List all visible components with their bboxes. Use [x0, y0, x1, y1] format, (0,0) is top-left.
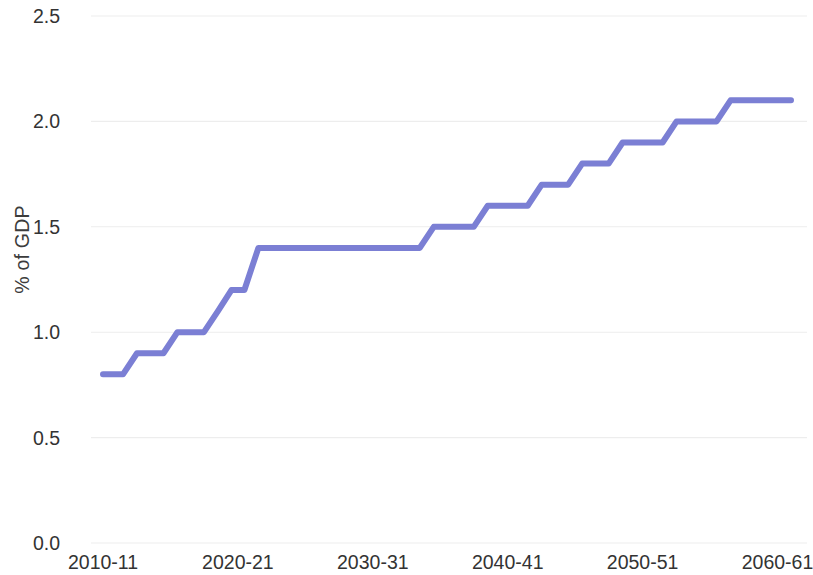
gridlines — [91, 16, 807, 543]
series-line — [103, 100, 791, 374]
x-axis-tick-label: 2010-11 — [68, 551, 138, 574]
x-axis-tick-labels: 2010-112020-212030-312040-412050-512060-… — [0, 551, 807, 575]
x-axis-tick-label: 2060-61 — [742, 551, 813, 574]
x-axis-tick-label: 2050-51 — [607, 551, 679, 574]
x-axis-tick-label: 2020-21 — [202, 551, 274, 574]
x-axis-tick-label: 2030-31 — [337, 551, 409, 574]
x-axis-tick-label: 2040-41 — [472, 551, 544, 574]
data-series-group — [103, 100, 791, 374]
